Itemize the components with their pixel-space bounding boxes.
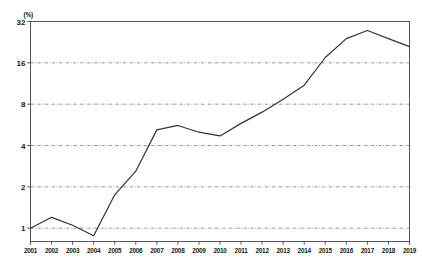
x-tick-label: 2019 [403,247,416,254]
y-tick-label: 4 [21,141,25,150]
y-tick-label: 2 [21,182,25,191]
x-tick-label: 2014 [298,247,311,254]
x-tick-label: 2015 [319,247,332,254]
line-chart: (%) 12481632 200120022003200420052006200… [0,0,422,264]
x-tick-label: 2003 [66,247,79,254]
x-tick-label: 2004 [87,247,100,254]
x-tick-label: 2005 [108,247,121,254]
axis-frame [31,22,410,242]
x-tick-label: 2008 [171,247,184,254]
x-tick-label: 2012 [256,247,269,254]
plot-area [0,0,422,264]
x-tick-label: 2006 [129,247,142,254]
x-tick-label: 2011 [235,247,248,254]
x-tick-label: 2007 [150,247,163,254]
y-tick-label: 16 [17,58,26,67]
x-tick-label: 2016 [340,247,353,254]
x-tick-label: 2013 [277,247,290,254]
axis-ticks [27,22,409,245]
x-tick-label: 2009 [192,247,205,254]
x-tick-label: 2002 [45,247,58,254]
y-tick-label: 1 [21,224,25,233]
x-tick-label: 2017 [361,247,374,254]
x-tick-label: 2001 [24,247,37,254]
gridlines [31,63,410,228]
y-tick-label: 32 [17,17,26,26]
y-tick-label: 8 [21,100,25,109]
x-tick-label: 2010 [213,247,226,254]
x-tick-label: 2018 [382,247,395,254]
data-series-line [31,31,410,236]
